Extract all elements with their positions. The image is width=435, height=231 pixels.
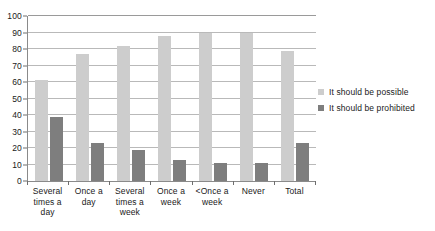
bar[interactable] [117,46,130,181]
bar[interactable] [240,33,253,182]
legend-swatch-icon-possible [318,89,324,95]
bar[interactable] [255,163,268,181]
x-axis-tickmark [150,181,151,185]
x-axis-category-label: Total [274,186,315,218]
x-axis-tickmark [27,181,28,185]
y-axis-tick-label-60: 60 [12,78,22,87]
bar[interactable] [158,36,171,181]
bar[interactable] [35,80,48,181]
y-axis-tick-label-40: 40 [12,111,22,120]
bar-chart: 0102030405060708090100 Several times a d… [0,0,435,231]
x-axis-category-label: Never [233,186,274,218]
bar[interactable] [214,163,227,181]
legend-item-prohibited[interactable]: It should be prohibited [318,100,433,116]
y-axis-tick-label-90: 90 [12,28,22,37]
y-axis-tick-label-0: 0 [17,177,22,186]
legend: It should be possible It should be prohi… [318,84,433,116]
bar-group [193,16,234,181]
legend-item-possible[interactable]: It should be possible [318,84,433,100]
y-axis-tick-label-50: 50 [12,94,22,103]
x-axis-tickmarks [27,181,315,185]
bar[interactable] [132,150,145,181]
bar-group [151,16,192,181]
y-axis-tick-label-10: 10 [12,160,22,169]
y-axis-tick-label-30: 30 [12,127,22,136]
x-axis-category-label: Several times a week [109,186,150,218]
bar[interactable] [296,143,309,181]
legend-label-possible: It should be possible [329,88,409,97]
x-axis-tickmark [315,181,316,185]
bar-group [234,16,275,181]
x-axis-category-label: Once a week [150,186,191,218]
x-axis-category-label: Several times a day [27,186,68,218]
y-axis-tick-label-20: 20 [12,144,22,153]
bar[interactable] [91,143,104,181]
bar-group [28,16,69,181]
y-axis: 0102030405060708090100 [0,16,27,181]
x-axis-tickmark [233,181,234,185]
bars-layer [28,16,316,181]
bar[interactable] [50,117,63,181]
bar-group [110,16,151,181]
x-axis-category-label: Once a day [68,186,109,218]
legend-swatch-icon-prohibited [318,105,324,111]
plot-area [27,16,316,182]
x-axis-tickmark [109,181,110,185]
y-axis-tick-label-100: 100 [7,12,22,21]
bar-group [69,16,110,181]
x-axis-category-label: <Once a week [192,186,233,218]
x-axis-labels: Several times a dayOnce a daySeveral tim… [27,186,315,218]
x-axis-tickmark [192,181,193,185]
bar-group [275,16,316,181]
x-axis-tickmark [68,181,69,185]
y-axis-tick-label-70: 70 [12,61,22,70]
bar[interactable] [199,33,212,182]
legend-label-prohibited: It should be prohibited [329,104,415,113]
bar[interactable] [281,51,294,181]
bar[interactable] [76,54,89,181]
x-axis-tickmark [274,181,275,185]
y-axis-tick-label-80: 80 [12,45,22,54]
bar[interactable] [173,160,186,181]
